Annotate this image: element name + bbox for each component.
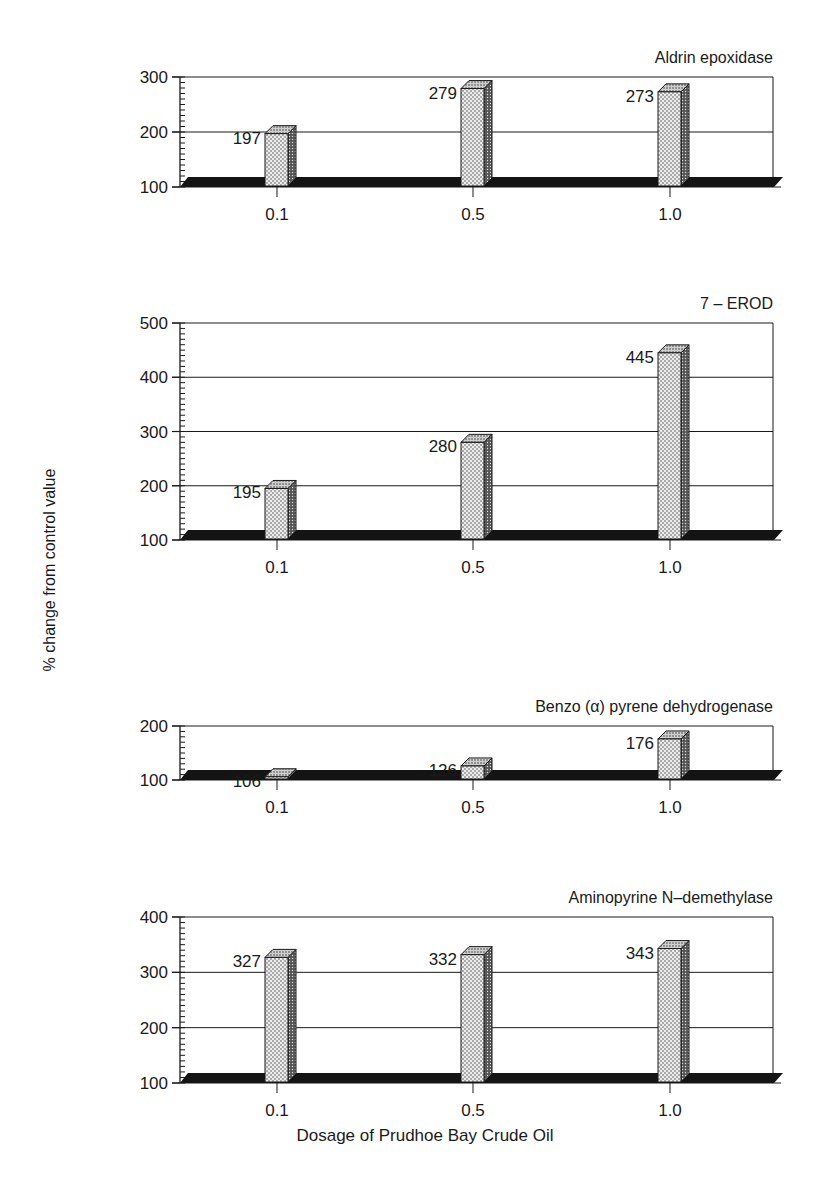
y-tick-label: 100 bbox=[140, 531, 168, 550]
bar-side bbox=[484, 434, 492, 539]
chart-panel-2: 7 – EROD1002003004005001950.12800.54451.… bbox=[140, 295, 783, 577]
y-tick-label: 200 bbox=[140, 123, 168, 142]
bar-value-label: 279 bbox=[429, 84, 457, 103]
y-tick-label: 200 bbox=[140, 1019, 168, 1038]
y-axis-label-text: % change from control value bbox=[41, 469, 59, 672]
bar-front bbox=[265, 777, 288, 779]
bar-side bbox=[681, 345, 689, 539]
bar-front bbox=[265, 957, 288, 1082]
x-tick-label: 0.1 bbox=[265, 205, 289, 224]
bar-front bbox=[265, 488, 288, 539]
y-tick-label: 300 bbox=[140, 423, 168, 442]
bar-1.0: 273 bbox=[626, 84, 689, 186]
figure: Aldrin epoxidase1002003001970.12790.5273… bbox=[0, 0, 820, 1193]
bar-side bbox=[681, 84, 689, 186]
bar-0.5: 280 bbox=[429, 434, 492, 539]
bar-side bbox=[484, 947, 492, 1082]
bar-front bbox=[658, 949, 681, 1082]
chart-title: Aldrin epoxidase bbox=[655, 49, 773, 66]
chart-panel-4: Aminopyrine N–demethylase100200300400327… bbox=[140, 889, 783, 1120]
x-tick-label: 1.0 bbox=[658, 205, 682, 224]
bar-front bbox=[461, 766, 484, 779]
x-tick-label: 0.1 bbox=[265, 798, 289, 817]
x-tick-label: 1.0 bbox=[658, 558, 682, 577]
y-tick-label: 100 bbox=[140, 1074, 168, 1093]
bar-front bbox=[658, 353, 681, 539]
bar-value-label: 273 bbox=[626, 87, 654, 106]
chart-title: Aminopyrine N–demethylase bbox=[568, 889, 773, 906]
bar-side bbox=[484, 81, 492, 186]
bar-front bbox=[658, 92, 681, 186]
x-tick-label: 0.5 bbox=[461, 558, 485, 577]
y-tick-label: 100 bbox=[140, 178, 168, 197]
bar-front bbox=[461, 442, 484, 539]
y-tick-label: 400 bbox=[140, 908, 168, 927]
x-tick-label: 1.0 bbox=[658, 798, 682, 817]
chart-title: Benzo (α) pyrene dehydrogenase bbox=[535, 698, 773, 715]
bar-value-label: 280 bbox=[429, 437, 457, 456]
bar-0.5: 332 bbox=[429, 947, 492, 1082]
bar-value-label: 445 bbox=[626, 348, 654, 367]
y-tick-label: 100 bbox=[140, 771, 168, 790]
y-tick-label: 500 bbox=[140, 314, 168, 333]
bar-side bbox=[288, 949, 296, 1082]
bar-value-label: 327 bbox=[233, 952, 261, 971]
x-tick-label: 0.1 bbox=[265, 558, 289, 577]
bar-0.5: 279 bbox=[429, 81, 492, 186]
bar-front bbox=[461, 955, 484, 1082]
bar-0.1: 197 bbox=[233, 126, 296, 186]
bar-1.0: 343 bbox=[626, 941, 689, 1082]
bar-side bbox=[681, 941, 689, 1082]
bar-value-label: 197 bbox=[233, 129, 261, 148]
bar-0.1: 327 bbox=[233, 949, 296, 1082]
bar-value-label: 126 bbox=[429, 761, 457, 780]
x-tick-label: 0.5 bbox=[461, 205, 485, 224]
bar-value-label: 176 bbox=[626, 734, 654, 753]
chart-panel-3: Benzo (α) pyrene dehydrogenase1002001060… bbox=[140, 698, 783, 817]
bar-front bbox=[658, 739, 681, 779]
bar-front bbox=[265, 134, 288, 186]
bar-value-label: 106 bbox=[233, 772, 261, 791]
y-tick-label: 200 bbox=[140, 477, 168, 496]
bar-value-label: 332 bbox=[429, 950, 457, 969]
y-tick-label: 300 bbox=[140, 68, 168, 87]
x-tick-label: 0.1 bbox=[265, 1101, 289, 1120]
x-tick-label: 1.0 bbox=[658, 1101, 682, 1120]
bar-front bbox=[461, 89, 484, 186]
chart-panel-1: Aldrin epoxidase1002003001970.12790.5273… bbox=[140, 49, 783, 224]
y-tick-label: 300 bbox=[140, 963, 168, 982]
bar-value-label: 195 bbox=[233, 483, 261, 502]
y-tick-label: 200 bbox=[140, 717, 168, 736]
x-axis-label: Dosage of Prudhoe Bay Crude Oil bbox=[0, 1126, 820, 1146]
bar-side bbox=[288, 480, 296, 539]
charts-canvas: Aldrin epoxidase1002003001970.12790.5273… bbox=[0, 0, 820, 1193]
bar-1.0: 445 bbox=[626, 345, 689, 539]
chart-title: 7 – EROD bbox=[700, 295, 773, 312]
bar-side bbox=[288, 126, 296, 186]
x-tick-label: 0.5 bbox=[461, 798, 485, 817]
bar-value-label: 343 bbox=[626, 944, 654, 963]
x-tick-label: 0.5 bbox=[461, 1101, 485, 1120]
y-tick-label: 400 bbox=[140, 368, 168, 387]
